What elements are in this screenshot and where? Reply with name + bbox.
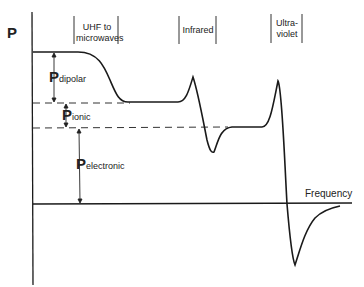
x-axis-label: Frequency	[305, 189, 352, 199]
label-p-electronic: Pelectronic	[76, 156, 125, 172]
region-label-line: Ultra-	[272, 18, 302, 29]
y-axis-label: P	[7, 25, 17, 40]
y-axis	[32, 12, 33, 285]
region-label-uhf: UHF to microwaves	[76, 22, 118, 44]
x-axis	[33, 203, 352, 204]
region-label-line: microwaves	[76, 33, 118, 44]
component-symbol: P	[62, 106, 72, 123]
component-subscript: electronic	[86, 161, 125, 171]
component-subscript: dipolar	[59, 74, 86, 84]
component-subscript: ionic	[72, 112, 91, 122]
region-label-line: Infrared	[180, 25, 216, 36]
component-symbol: P	[76, 155, 86, 172]
polarization-diagram	[0, 0, 364, 287]
label-p-ionic: Pionic	[62, 107, 91, 123]
label-p-dipolar: Pdipolar	[49, 69, 86, 85]
component-symbol: P	[49, 68, 59, 85]
region-label-line: violet	[272, 29, 302, 40]
ionic-baseline	[33, 127, 228, 128]
region-label-infrared: Infrared	[180, 25, 216, 36]
region-label-ultraviolet: Ultra- violet	[272, 18, 302, 40]
region-label-line: UHF to	[76, 22, 118, 33]
